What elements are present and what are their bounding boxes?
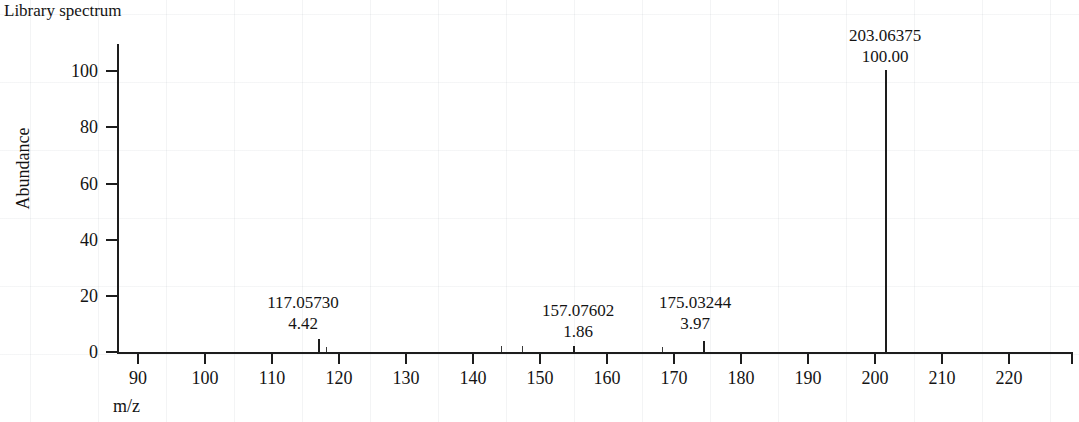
x-tick-label-220: 220 (969, 368, 1049, 388)
y-tick-label-100: 100 (50, 62, 98, 80)
peak-minor-147 (522, 346, 523, 352)
peak-label-203-mz: 203.06375 (805, 25, 965, 46)
x-tick-180 (740, 353, 742, 364)
peak-203 (885, 70, 887, 352)
y-tick-label-0-wrap: 0 (40, 343, 98, 361)
peak-label-175-abundance: 3.97 (615, 313, 775, 334)
x-tick-160 (606, 353, 608, 364)
y-tick-label-80: 80 (50, 118, 98, 136)
y-tick-label-20-wrap: 20 (40, 287, 98, 305)
peak-minor-144 (501, 346, 502, 352)
x-tick-200 (874, 353, 876, 364)
peak-label-117: 117.05730 4.42 (223, 292, 383, 334)
y-tick-40 (106, 239, 119, 241)
y-tick-label-40-wrap: 40 (40, 231, 98, 249)
peak-minor-118 (326, 347, 327, 352)
peak-label-117-mz: 117.05730 (223, 292, 383, 313)
x-tick-140 (472, 353, 474, 364)
mass-spectrum-plot: Abundance 0 20 40 60 80 100 90 100 110 1… (0, 0, 1079, 422)
y-tick-label-40: 40 (50, 231, 98, 249)
y-tick-label-100-wrap: 100 (40, 62, 98, 80)
peak-label-175: 175.03244 3.97 (615, 292, 775, 334)
y-tick-60 (106, 183, 119, 185)
x-tick-210 (941, 353, 943, 364)
x-axis-title: m/z (113, 396, 140, 416)
y-axis-title: Abundance (13, 99, 34, 239)
x-tick-170 (673, 353, 675, 364)
x-tick-120 (338, 353, 340, 364)
x-tick-90 (137, 353, 139, 364)
x-axis-line (117, 352, 1073, 354)
y-axis-line (117, 44, 119, 353)
x-tick-end (1071, 353, 1073, 364)
peak-175 (703, 341, 705, 352)
y-tick-label-60: 60 (50, 175, 98, 193)
peak-157 (573, 346, 575, 352)
x-tick-190 (807, 353, 809, 364)
x-tick-130 (405, 353, 407, 364)
y-tick-100 (106, 70, 119, 72)
x-tick-100 (204, 353, 206, 364)
peak-label-117-abundance: 4.42 (223, 313, 383, 334)
x-tick-150 (539, 353, 541, 364)
y-tick-label-20: 20 (50, 287, 98, 305)
y-tick-label-0: 0 (50, 343, 98, 361)
y-tick-20 (106, 295, 119, 297)
peak-117 (318, 339, 320, 352)
x-tick-220 (1008, 353, 1010, 364)
peak-minor-170 (662, 347, 663, 352)
y-tick-label-80-wrap: 80 (40, 118, 98, 136)
peak-label-203: 203.06375 100.00 (805, 25, 965, 67)
y-tick-label-60-wrap: 60 (40, 175, 98, 193)
peak-label-203-abundance: 100.00 (805, 46, 965, 67)
peak-label-175-mz: 175.03244 (615, 292, 775, 313)
y-tick-0 (106, 351, 119, 353)
y-tick-80 (106, 126, 119, 128)
x-tick-110 (271, 353, 273, 364)
